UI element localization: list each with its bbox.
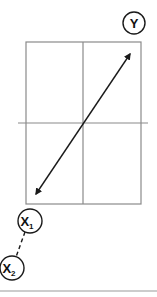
x2-subscript: 2: [11, 269, 16, 278]
x1-label: X: [20, 214, 29, 229]
dashed-connector: [16, 232, 25, 257]
x2-node: X2: [0, 256, 24, 280]
y-node: Y: [123, 12, 145, 34]
y-label: Y: [130, 16, 139, 31]
diagram-canvas: Y X1 X2: [0, 0, 157, 297]
x2-label: X: [2, 261, 11, 276]
x1-node: X1: [18, 209, 42, 233]
x1-subscript: 1: [29, 222, 34, 231]
